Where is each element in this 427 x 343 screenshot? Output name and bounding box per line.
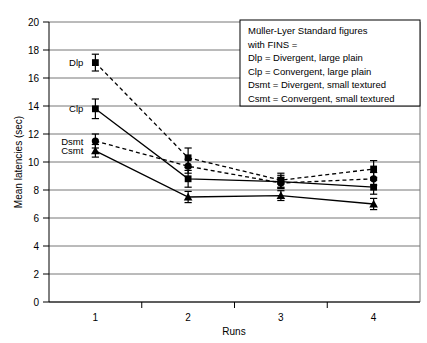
y-tick-label-2: 2 xyxy=(33,269,39,280)
y-tick-label-10: 10 xyxy=(28,157,40,168)
y-tick-label-16: 16 xyxy=(28,73,40,84)
data-point-Dlp-run4 xyxy=(370,166,377,173)
x-axis-title: Runs xyxy=(222,326,245,337)
x-tick-label-3: 3 xyxy=(278,312,284,323)
data-point-Clp-run2 xyxy=(185,175,192,182)
x-tick-label-2: 2 xyxy=(185,312,191,323)
y-tick-label-8: 8 xyxy=(33,185,39,196)
data-point-Clp-run1 xyxy=(92,105,99,112)
y-tick-label-14: 14 xyxy=(28,101,40,112)
y-axis-title: Mean latencies (sec) xyxy=(13,116,24,208)
y-tick-label-4: 4 xyxy=(33,241,39,252)
data-point-Dlp-run1 xyxy=(92,59,99,66)
x-tick-label-1: 1 xyxy=(93,312,99,323)
legend-line-3: Clp = Convergent, large plain xyxy=(248,66,371,77)
legend-line-2: Dlp = Divergent, large plain xyxy=(248,52,363,63)
legend-box: Müller-Lyer Standard figures with FINS =… xyxy=(240,20,420,106)
y-tick-label-20: 20 xyxy=(28,17,40,28)
legend-line-5: Csmt = Convergent, small textured xyxy=(248,93,395,104)
legend-line-4: Dsmt = Divergent, small textured xyxy=(248,79,386,90)
data-point-Dsmt-run2 xyxy=(185,163,192,170)
y-tick-label-18: 18 xyxy=(28,45,40,56)
series-annotation-Dlp: Dlp xyxy=(69,57,83,68)
y-tick-label-6: 6 xyxy=(33,213,39,224)
chart-figure: 02468101214161820 1234 Mean latencies (s… xyxy=(0,0,427,343)
legend-line-0: Müller-Lyer Standard figures xyxy=(248,25,368,36)
legend-line-1: with FINS = xyxy=(247,39,298,50)
data-point-Dsmt-run3 xyxy=(277,179,284,186)
y-tick-label-12: 12 xyxy=(28,129,40,140)
data-point-Dsmt-run1 xyxy=(92,137,99,144)
data-point-Dsmt-run4 xyxy=(370,175,377,182)
series-annotation-Clp: Clp xyxy=(69,103,83,114)
x-tick-label-4: 4 xyxy=(371,312,377,323)
y-tick-label-0: 0 xyxy=(33,297,39,308)
series-annotation-Csmt: Csmt xyxy=(61,145,84,156)
line-chart-svg: 02468101214161820 1234 Mean latencies (s… xyxy=(0,0,427,343)
